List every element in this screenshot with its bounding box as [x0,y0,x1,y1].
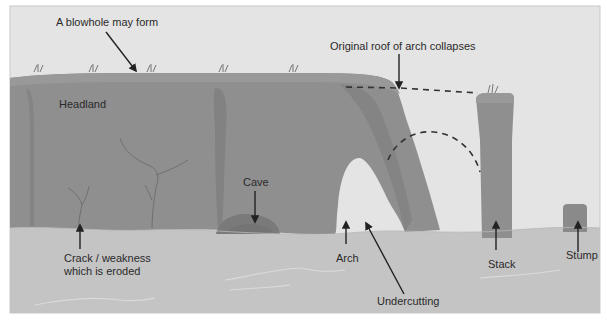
coastal-erosion-diagram: A blowhole may form Original roof of arc… [0,0,607,320]
roof-label: Original roof of arch collapses [330,40,476,52]
stack-top [476,93,514,103]
crack-label-line2: which is eroded [63,265,140,277]
stack-label: Stack [488,258,516,270]
stack [476,93,514,238]
stump-label: Stump [566,249,598,261]
arch-label: Arch [336,252,359,264]
blowhole-label: A blowhole may form [56,16,158,28]
cave-label: Cave [243,176,269,188]
crack-label-line1: Crack / weakness [64,252,151,264]
undercutting-label: Undercutting [377,295,439,307]
headland-label: Headland [59,98,106,110]
